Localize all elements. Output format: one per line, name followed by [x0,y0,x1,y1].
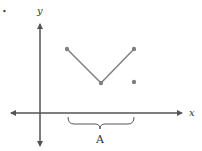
x-axis-label: x [189,107,195,118]
bullet-mark: • [2,7,7,16]
point-isolated [132,80,136,84]
curly-brace [68,117,134,129]
y-axis-label: y [36,5,43,16]
point-left [65,47,69,51]
v-shape-line [67,49,134,83]
brace-label: A [95,133,105,146]
point-right [132,47,136,51]
point-vertex [99,81,103,85]
diagram: • y x A [0,0,202,151]
